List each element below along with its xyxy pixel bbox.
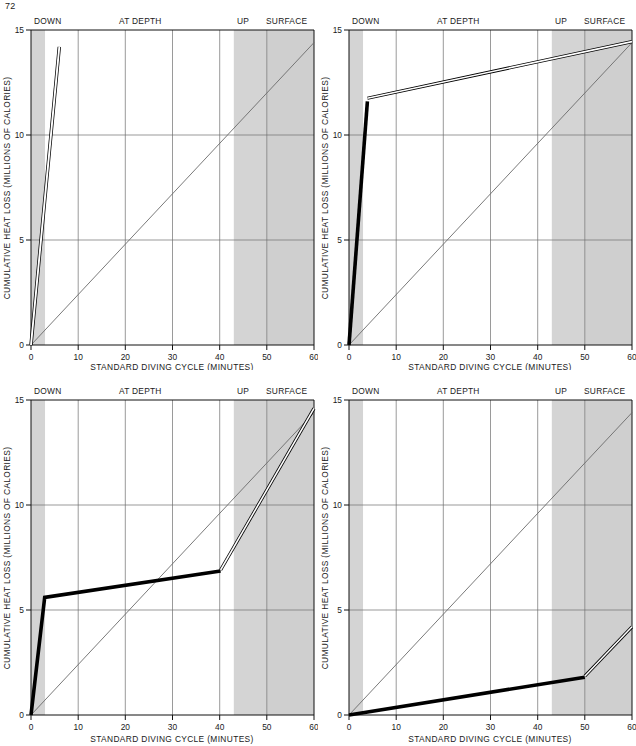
- band-label-at-depth: AT DEPTH: [437, 16, 480, 26]
- y-tick-label-10: 10: [333, 130, 343, 140]
- x-ticks-top-right: [349, 345, 632, 350]
- y-ticks-bottom-left: [26, 400, 31, 715]
- y-tick-label-5: 5: [337, 235, 342, 245]
- x-tick-label-20: 20: [439, 352, 449, 362]
- y-tick-label-5: 5: [19, 605, 24, 615]
- x-tick-label-50: 50: [262, 352, 272, 362]
- x-tick-label-0: 0: [347, 352, 352, 362]
- y-tick-label-10: 10: [15, 500, 25, 510]
- x-tick-label-10: 10: [74, 352, 84, 362]
- y-tick-label-0: 0: [337, 710, 342, 720]
- chart-svg-top-right: DOWN AT DEPTH UP SURFACE 0 5 10 15 0 10 …: [318, 0, 636, 370]
- x-axis-title: STANDARD DIVING CYCLE (MINUTES): [90, 734, 253, 744]
- y-tick-label-15: 15: [15, 395, 25, 405]
- y-tick-label-0: 0: [19, 710, 24, 720]
- chart-panel-top-right: DOWN AT DEPTH UP SURFACE 0 5 10 15 0 10 …: [318, 0, 636, 370]
- band-label-surface: SURFACE: [584, 16, 625, 26]
- band-label-down: DOWN: [352, 16, 380, 26]
- y-tick-label-0: 0: [337, 340, 342, 350]
- x-tick-label-10: 10: [392, 352, 402, 362]
- x-tick-label-30: 30: [168, 352, 178, 362]
- y-axis-title: CUMULATIVE HEAT LOSS (MILLIONS OF CALORI…: [320, 77, 330, 300]
- band-up: [552, 400, 585, 715]
- y-tick-label-15: 15: [333, 25, 343, 35]
- x-axis-title: STANDARD DIVING CYCLE (MINUTES): [90, 362, 253, 370]
- y-tick-label-10: 10: [15, 130, 25, 140]
- band-at-depth: [45, 30, 234, 345]
- band-label-up: UP: [237, 386, 249, 396]
- chart-panel-top-left: DOWN AT DEPTH UP SURFACE 0 5 10 15 0 10 …: [0, 0, 318, 370]
- y-ticks-bottom-right: [344, 400, 349, 715]
- y-ticks-top-right: [344, 30, 349, 345]
- x-tick-label-60: 60: [309, 722, 318, 732]
- band-label-surface: SURFACE: [584, 386, 625, 396]
- y-tick-label-5: 5: [19, 235, 24, 245]
- y-axis-title: CUMULATIVE HEAT LOSS (MILLIONS OF CALORI…: [2, 77, 12, 300]
- band-up: [234, 400, 267, 715]
- band-label-up: UP: [555, 16, 567, 26]
- band-surface: [585, 30, 632, 345]
- x-tick-label-20: 20: [439, 722, 449, 732]
- y-ticks-top-left: [26, 30, 31, 345]
- x-tick-label-40: 40: [215, 352, 225, 362]
- x-tick-label-20: 20: [121, 352, 131, 362]
- band-label-up: UP: [555, 386, 567, 396]
- x-ticks-bottom-right: [349, 715, 632, 720]
- y-tick-label-5: 5: [337, 605, 342, 615]
- x-tick-label-60: 60: [627, 352, 636, 362]
- x-ticks-top-left: [31, 345, 314, 350]
- x-tick-label-0: 0: [347, 722, 352, 732]
- band-label-at-depth: AT DEPTH: [437, 386, 480, 396]
- y-axis-title: CUMULATIVE HEAT LOSS (MILLIONS OF CALORI…: [320, 447, 330, 670]
- band-label-at-depth: AT DEPTH: [119, 16, 162, 26]
- y-tick-label-15: 15: [333, 395, 343, 405]
- chart-svg-bottom-left: DOWN AT DEPTH UP SURFACE 0 5 10 15 0 10 …: [0, 370, 318, 746]
- y-axis-title: CUMULATIVE HEAT LOSS (MILLIONS OF CALORI…: [2, 447, 12, 670]
- x-axis-title: STANDARD DIVING CYCLE (MINUTES): [408, 362, 571, 370]
- band-at-depth: [363, 400, 552, 715]
- band-down: [31, 30, 45, 345]
- x-tick-label-30: 30: [486, 722, 496, 732]
- band-surface: [267, 30, 314, 345]
- x-ticks-bottom-left: [31, 715, 314, 720]
- x-tick-label-10: 10: [74, 722, 84, 732]
- band-label-surface: SURFACE: [266, 386, 307, 396]
- band-up: [552, 30, 585, 345]
- x-tick-label-30: 30: [168, 722, 178, 732]
- band-at-depth: [45, 400, 234, 715]
- band-label-at-depth: AT DEPTH: [119, 386, 162, 396]
- y-tick-label-0: 0: [19, 340, 24, 350]
- band-label-up: UP: [237, 16, 249, 26]
- band-at-depth: [363, 30, 552, 345]
- x-tick-label-30: 30: [486, 352, 496, 362]
- figure-grid: DOWN AT DEPTH UP SURFACE 0 5 10 15 0 10 …: [0, 0, 636, 746]
- band-label-down: DOWN: [34, 16, 62, 26]
- x-tick-label-60: 60: [627, 722, 636, 732]
- band-label-surface: SURFACE: [266, 16, 307, 26]
- x-tick-label-40: 40: [533, 352, 543, 362]
- chart-svg-top-left: DOWN AT DEPTH UP SURFACE 0 5 10 15 0 10 …: [0, 0, 318, 370]
- x-tick-label-20: 20: [121, 722, 131, 732]
- band-up: [234, 30, 267, 345]
- chart-svg-bottom-right: DOWN AT DEPTH UP SURFACE 0 5 10 15 0 10 …: [318, 370, 636, 746]
- x-axis-title: STANDARD DIVING CYCLE (MINUTES): [408, 734, 571, 744]
- band-down: [349, 400, 363, 715]
- band-label-down: DOWN: [34, 386, 62, 396]
- x-tick-label-50: 50: [580, 352, 590, 362]
- x-tick-label-50: 50: [262, 722, 272, 732]
- x-tick-label-40: 40: [533, 722, 543, 732]
- y-tick-label-15: 15: [15, 25, 25, 35]
- x-tick-label-0: 0: [29, 352, 34, 362]
- x-tick-label-60: 60: [309, 352, 318, 362]
- x-tick-label-50: 50: [580, 722, 590, 732]
- x-tick-label-40: 40: [215, 722, 225, 732]
- chart-panel-bottom-right: DOWN AT DEPTH UP SURFACE 0 5 10 15 0 10 …: [318, 370, 636, 746]
- y-tick-label-10: 10: [333, 500, 343, 510]
- chart-panel-bottom-left: DOWN AT DEPTH UP SURFACE 0 5 10 15 0 10 …: [0, 370, 318, 746]
- band-label-down: DOWN: [352, 386, 380, 396]
- x-tick-label-10: 10: [392, 722, 402, 732]
- x-tick-label-0: 0: [29, 722, 34, 732]
